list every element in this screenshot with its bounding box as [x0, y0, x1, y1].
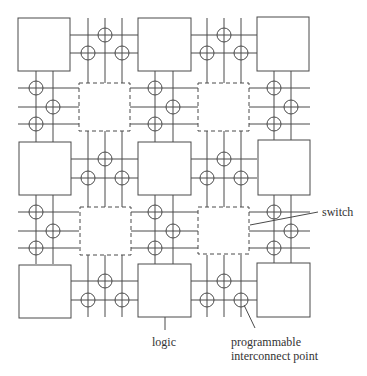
logic-label: logic [152, 335, 176, 349]
logic-block [257, 17, 309, 71]
switch-leader-line [250, 212, 318, 225]
logic-block [138, 142, 191, 195]
switch-label: switch [322, 205, 353, 219]
switch-box [198, 207, 249, 254]
fpga-diagram [0, 0, 367, 376]
logic-block [258, 140, 310, 195]
switch-box [80, 207, 131, 255]
pip-label-line2: interconnect point [231, 349, 318, 363]
logic-block [19, 265, 71, 318]
logic-blocks [18, 17, 310, 318]
switch-box [198, 83, 249, 131]
pip-label-line1: programmable [231, 335, 301, 349]
pip-leader-line [244, 305, 255, 328]
logic-block [19, 142, 71, 195]
logic-block [257, 263, 310, 317]
logic-block [18, 18, 70, 71]
logic-block [138, 264, 191, 317]
logic-block [138, 18, 191, 71]
switch-box [79, 83, 130, 131]
